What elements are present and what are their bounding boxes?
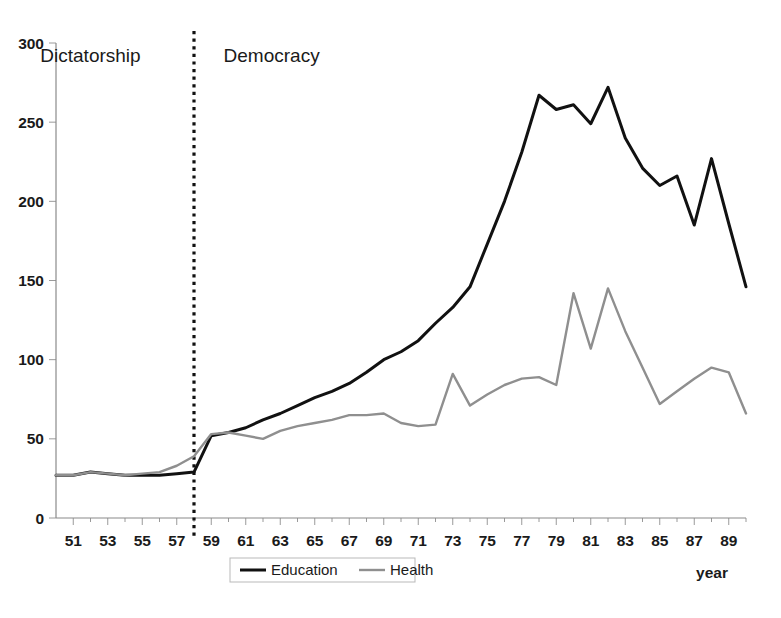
x-tick-label: 79 [548,532,566,549]
x-tick-label: 89 [720,532,738,549]
regime-annotations: DictatorshipDemocracy [40,45,320,66]
y-axis-ticks: 050100150200250300 [18,35,56,527]
y-tick-label: 150 [18,272,44,289]
chart-legend[interactable]: EducationHealth [230,558,433,582]
chart-container: 050100150200250300 515355575961636567697… [0,0,781,618]
x-tick-label: 85 [651,532,669,549]
x-tick-label: 83 [617,532,635,549]
y-tick-label: 200 [18,193,44,210]
x-tick-label: 87 [686,532,703,549]
x-tick-label: 63 [272,532,290,549]
x-tick-label: 67 [341,532,358,549]
x-axis-title: year [696,564,728,581]
x-axis-ticks: 5153555759616365676971737577798183858789 [65,518,746,549]
series-line-health [56,288,746,475]
x-tick-label: 73 [444,532,462,549]
y-tick-label: 50 [27,430,44,447]
x-tick-label: 81 [582,532,600,549]
y-tick-label: 100 [18,351,44,368]
series-line-education [56,87,746,475]
x-axis-title-label: year [696,564,728,581]
x-tick-label: 53 [99,532,117,549]
legend-label-health: Health [390,561,433,578]
x-tick-label: 57 [168,532,185,549]
x-tick-label: 69 [375,532,393,549]
x-tick-label: 55 [134,532,152,549]
data-series [56,87,746,475]
axis-lines [56,43,746,518]
line-chart: 050100150200250300 515355575961636567697… [0,0,781,618]
x-tick-label: 75 [479,532,497,549]
x-tick-label: 65 [306,532,324,549]
x-tick-label: 61 [237,532,255,549]
x-tick-label: 51 [65,532,83,549]
legend-label-education: Education [271,561,338,578]
annotation-dictatorship: Dictatorship [40,45,140,66]
y-tick-label: 0 [35,510,44,527]
annotation-democracy: Democracy [224,45,321,66]
y-tick-label: 250 [18,114,44,131]
x-tick-label: 59 [203,532,221,549]
x-tick-label: 77 [513,532,530,549]
x-tick-label: 71 [410,532,428,549]
